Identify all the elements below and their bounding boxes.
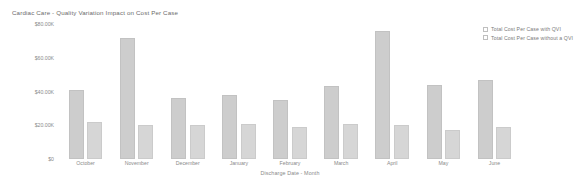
bar[interactable]	[190, 125, 205, 159]
y-axis-tick-label: $0	[48, 156, 54, 162]
bar[interactable]	[478, 80, 493, 159]
bar-group	[418, 24, 469, 159]
bar[interactable]	[375, 31, 390, 159]
bar[interactable]	[222, 95, 237, 159]
bar[interactable]	[394, 125, 409, 159]
y-axis: $80.00K$60.00K$40.00K$20.00K$0	[0, 24, 58, 159]
bar-group	[111, 24, 162, 159]
bar-group	[469, 24, 520, 159]
x-axis-tick-label: February	[280, 160, 301, 166]
bars-layer	[60, 24, 520, 159]
x-axis-tick-label: April	[387, 160, 397, 166]
bar[interactable]	[496, 127, 511, 159]
bar[interactable]	[292, 127, 307, 159]
x-axis-tick-label: December	[176, 160, 200, 166]
chart-container: Cardiac Care - Quality Variation Impact …	[0, 0, 579, 188]
y-axis-tick-label: $40.00K	[35, 89, 54, 95]
x-axis-tick-label: January	[230, 160, 248, 166]
x-axis-tick-label: November	[125, 160, 149, 166]
x-axis-tick-label: October	[76, 160, 94, 166]
bar[interactable]	[171, 98, 186, 159]
x-axis-tick-label: March	[334, 160, 348, 166]
bar[interactable]	[273, 100, 288, 159]
bar[interactable]	[343, 124, 358, 159]
bar-group	[367, 24, 418, 159]
y-axis-tick-label: $80.00K	[35, 21, 54, 27]
bar-group	[162, 24, 213, 159]
x-axis-title: Discharge Date - Month	[60, 170, 520, 176]
bar[interactable]	[138, 125, 153, 159]
x-axis-tick-label: May	[438, 160, 448, 166]
bar[interactable]	[241, 124, 256, 159]
bar[interactable]	[324, 86, 339, 159]
bar-group	[60, 24, 111, 159]
bar[interactable]	[87, 122, 102, 159]
bar-group	[264, 24, 315, 159]
y-axis-tick-label: $20.00K	[35, 122, 54, 128]
y-axis-tick-label: $60.00K	[35, 55, 54, 61]
x-axis-tick-label: June	[489, 160, 500, 166]
bar[interactable]	[427, 85, 442, 159]
bar[interactable]	[120, 38, 135, 160]
bar-group	[213, 24, 264, 159]
chart-title: Cardiac Care - Quality Variation Impact …	[12, 9, 178, 16]
plot-area	[60, 24, 520, 159]
bar[interactable]	[445, 130, 460, 159]
bar[interactable]	[69, 90, 84, 159]
bar-group	[316, 24, 367, 159]
